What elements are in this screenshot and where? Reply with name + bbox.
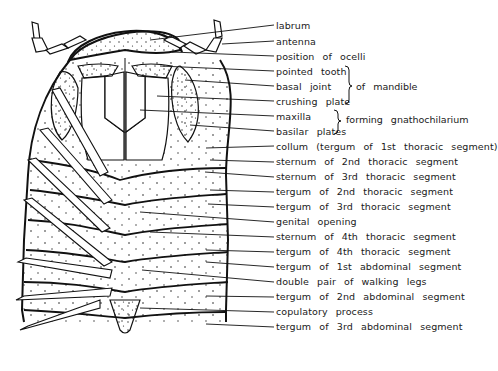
- label-tergum-2: tergum of 2nd thoracic segment: [276, 186, 453, 197]
- label-crushing-plate: crushing plate: [276, 96, 350, 107]
- label-collum: collum (tergum of 1st thoracic segment): [276, 141, 498, 152]
- label-tergum-abd-3: tergum of 3rd abdominal segment: [276, 321, 463, 332]
- group-label-gnathochilarium: forming gnathochilarium: [346, 114, 468, 125]
- label-copulatory: copulatory process: [276, 306, 373, 317]
- label-sternum-4: sternum of 4th thoracic segment: [276, 231, 456, 242]
- label-basilar-plates: basilar plates: [276, 126, 346, 137]
- label-antenna: antenna: [276, 36, 316, 47]
- label-tergum-3: tergum of 3rd thoracic segment: [276, 201, 451, 212]
- label-ocelli: position of ocelli: [276, 51, 365, 62]
- label-maxilla: maxilla: [276, 111, 311, 122]
- label-genital-opening: genital opening: [276, 216, 357, 227]
- label-tergum-abd-2: tergum of 2nd abdominal segment: [276, 291, 465, 302]
- label-basal-joint: basal joint: [276, 81, 331, 92]
- label-sternum-2: sternum of 2nd thoracic segment: [276, 156, 458, 167]
- label-pointed-tooth: pointed tooth: [276, 66, 347, 77]
- label-tergum-4: tergum of 4th thoracic segment: [276, 246, 451, 257]
- group-label-mandible: of mandible: [356, 81, 417, 92]
- label-labrum: labrum: [276, 20, 310, 31]
- label-tergum-abd-1: tergum of 1st abdominal segment: [276, 261, 461, 272]
- label-double-legs: double pair of walking legs: [276, 276, 427, 287]
- label-sternum-3: sternum of 3rd thoracic segment: [276, 171, 456, 182]
